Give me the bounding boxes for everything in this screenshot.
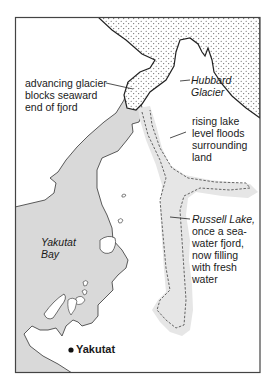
yakutat-bay-label: Yakutat Bay	[41, 236, 76, 260]
yakutat-town-label: Yakutat	[76, 343, 115, 355]
island	[122, 194, 126, 197]
leader-hubbard	[180, 80, 190, 81]
leader-flood-note	[170, 132, 186, 138]
yakutat-town-dot	[68, 347, 73, 352]
yakutat-bay-water	[15, 78, 143, 373]
hubbard-glacier-label: Hubbard Glacier	[191, 74, 231, 98]
map-canvas	[0, 0, 273, 387]
flood-note-label: rising lake level floods surrounding lan…	[192, 115, 247, 163]
russell-lake-label: Russell Lake, once a sea- water fjord, n…	[192, 213, 255, 285]
glacier-note-label: advancing glacier blocks seaward end of …	[25, 77, 107, 113]
island	[118, 219, 123, 224]
russell-lake-name: Russell Lake,	[192, 213, 255, 225]
